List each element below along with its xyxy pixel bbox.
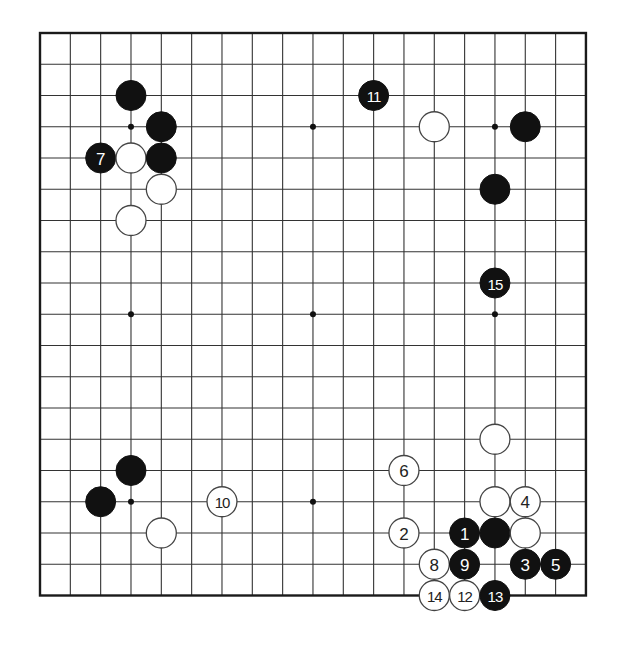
star-point [492, 124, 498, 130]
stone-disc [116, 81, 146, 111]
black-stone [146, 112, 176, 142]
star-point [128, 311, 134, 317]
stone-disc [419, 112, 449, 142]
black-stone [480, 518, 510, 548]
star-point [492, 311, 498, 317]
white-stone-8: 8 [419, 549, 449, 579]
stone-disc [146, 143, 176, 173]
white-stone [146, 518, 176, 548]
white-stone [116, 206, 146, 236]
star-point [128, 124, 134, 130]
move-number: 1 [460, 525, 469, 544]
white-stone [146, 174, 176, 204]
stone-disc [480, 174, 510, 204]
black-stone-9: 9 [450, 549, 480, 579]
move-number: 15 [488, 276, 503, 293]
white-stone [480, 487, 510, 517]
black-stone-13: 13 [480, 581, 510, 611]
white-stone-10: 10 [207, 487, 237, 517]
stone-disc [116, 143, 146, 173]
move-number: 7 [96, 150, 105, 169]
white-stone [419, 112, 449, 142]
stone-disc [146, 518, 176, 548]
move-number: 4 [521, 493, 530, 512]
move-number: 14 [427, 588, 442, 605]
star-point [310, 311, 316, 317]
move-number: 3 [521, 556, 530, 575]
move-number: 5 [551, 556, 560, 575]
white-stone-4: 4 [510, 487, 540, 517]
white-stone-12: 12 [450, 581, 480, 611]
white-stone [116, 143, 146, 173]
black-stone [116, 81, 146, 111]
black-stone [510, 112, 540, 142]
stone-disc [146, 112, 176, 142]
move-number: 9 [460, 556, 469, 575]
black-stone [116, 456, 146, 486]
move-number: 6 [399, 462, 408, 481]
move-number: 10 [215, 494, 230, 511]
star-point [310, 499, 316, 505]
stone-disc [510, 518, 540, 548]
white-stone [480, 424, 510, 454]
move-number: 2 [399, 525, 408, 544]
black-stone-5: 5 [541, 549, 571, 579]
stone-disc [116, 206, 146, 236]
black-stone [86, 487, 116, 517]
stone-disc [480, 424, 510, 454]
move-number: 11 [367, 88, 381, 105]
stone-disc [86, 487, 116, 517]
white-stone-14: 14 [419, 581, 449, 611]
star-point [128, 499, 134, 505]
stone-disc [116, 456, 146, 486]
stone-disc [146, 174, 176, 204]
black-stone-7: 7 [86, 143, 116, 173]
stone-disc [480, 518, 510, 548]
black-stone-15: 15 [480, 268, 510, 298]
go-board: 711151064218935141213 [0, 0, 620, 658]
move-number: 12 [457, 588, 472, 605]
black-stone [480, 174, 510, 204]
stone-disc [510, 112, 540, 142]
stone-disc [480, 487, 510, 517]
black-stone-3: 3 [510, 549, 540, 579]
white-stone-2: 2 [389, 518, 419, 548]
black-stone-1: 1 [450, 518, 480, 548]
move-number: 13 [488, 588, 503, 605]
white-stone [510, 518, 540, 548]
white-stone-6: 6 [389, 456, 419, 486]
move-number: 8 [430, 556, 439, 575]
star-point [310, 124, 316, 130]
black-stone [146, 143, 176, 173]
black-stone-11: 11 [359, 81, 389, 111]
